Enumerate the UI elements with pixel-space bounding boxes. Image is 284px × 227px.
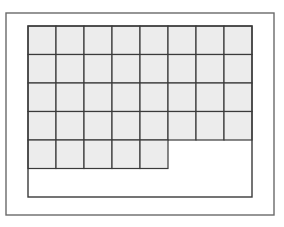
grid-cell (56, 55, 84, 84)
grid-cell (224, 26, 252, 55)
grid-cell (140, 140, 168, 169)
grid-cell (224, 112, 252, 141)
grid-cell (112, 83, 140, 112)
grid-cell (112, 26, 140, 55)
grid-cell (196, 83, 224, 112)
grid-cell (112, 55, 140, 84)
grid-cell (224, 55, 252, 84)
grid-cell (168, 26, 196, 55)
grid-cell (168, 112, 196, 141)
grid-cell (84, 55, 112, 84)
grid-cell (196, 26, 224, 55)
grid-cell (56, 26, 84, 55)
grid-cell (56, 112, 84, 141)
grid-cell (84, 140, 112, 169)
grid-cell (140, 26, 168, 55)
grid-cell (140, 112, 168, 141)
grid-cell (140, 55, 168, 84)
grid-diagram (0, 0, 284, 227)
grid-cell (112, 112, 140, 141)
grid-cell (224, 83, 252, 112)
grid-cell (112, 140, 140, 169)
grid-cell (28, 83, 56, 112)
grid-cell (56, 83, 84, 112)
grid-cell (140, 83, 168, 112)
grid-cell (84, 26, 112, 55)
grid-cell (28, 55, 56, 84)
grid-cell (196, 55, 224, 84)
grid-cell (28, 112, 56, 141)
grid-cell (84, 83, 112, 112)
grid-cell (168, 83, 196, 112)
grid-cell (168, 55, 196, 84)
grid-cell (56, 140, 84, 169)
grid-cell (28, 140, 56, 169)
grid-cell (84, 112, 112, 141)
grid-cell (196, 112, 224, 141)
grid-cell (28, 26, 56, 55)
